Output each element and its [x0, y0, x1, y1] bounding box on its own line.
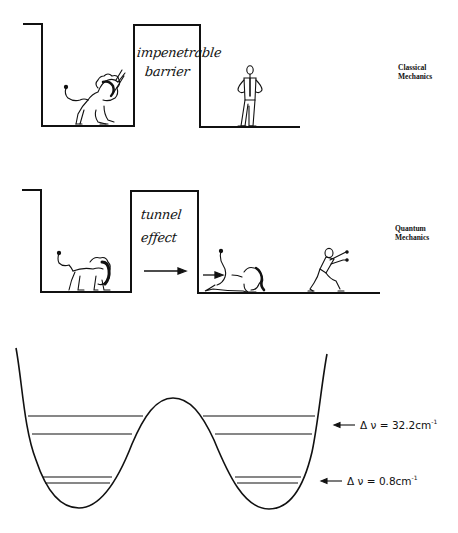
splitting-unit: cm	[396, 475, 412, 487]
classical-label-line2: Mechanics	[398, 72, 432, 81]
equals-sign: =	[380, 419, 389, 431]
barrier-text-effect: effect	[140, 230, 177, 245]
unit-exponent: -1	[412, 474, 418, 481]
double-well-potential-curve	[16, 348, 327, 509]
quantum-label-line1: Quantum	[395, 224, 429, 233]
upper-splitting-arrow	[334, 423, 355, 428]
barrier-text-impenetrable: impenetrable	[136, 45, 222, 60]
energy-levels-left-well	[28, 416, 143, 483]
man-figure-quantum-running	[308, 248, 348, 291]
quantum-label-line2: Mechanics	[395, 233, 429, 242]
splitting-unit: cm	[415, 419, 431, 431]
splitting-value: 0.8	[379, 475, 396, 487]
tunnel-arrow-exit	[203, 272, 223, 278]
lion-figure-classical	[64, 70, 125, 124]
lower-splitting-label: Δ ν = 0.8cm-1	[347, 474, 418, 487]
tunnel-arrow-inside-barrier	[144, 268, 186, 274]
energy-levels-right-well	[203, 416, 315, 483]
illustration-canvas	[0, 0, 458, 533]
lower-splitting-arrow	[321, 479, 342, 484]
quantum-mechanics-label: Quantum Mechanics	[395, 224, 429, 242]
quantum-potential-well	[22, 190, 380, 293]
equals-sign: =	[367, 475, 376, 487]
lion-figure-quantum-left	[57, 251, 110, 290]
barrier-text-tunnel: tunnel	[140, 207, 182, 222]
upper-splitting-label: Δ ν = 32.2cm-1	[360, 418, 437, 431]
splitting-value: 32.2	[392, 419, 415, 431]
delta-nu-symbol: Δ ν	[347, 475, 363, 487]
classical-label-line1: Classical	[398, 63, 432, 72]
classical-mechanics-label: Classical Mechanics	[398, 63, 432, 81]
delta-nu-symbol: Δ ν	[360, 419, 376, 431]
barrier-text-barrier: barrier	[144, 64, 190, 79]
lion-figure-quantum-right	[205, 249, 264, 293]
man-figure-classical	[238, 66, 262, 126]
unit-exponent: -1	[431, 418, 437, 425]
